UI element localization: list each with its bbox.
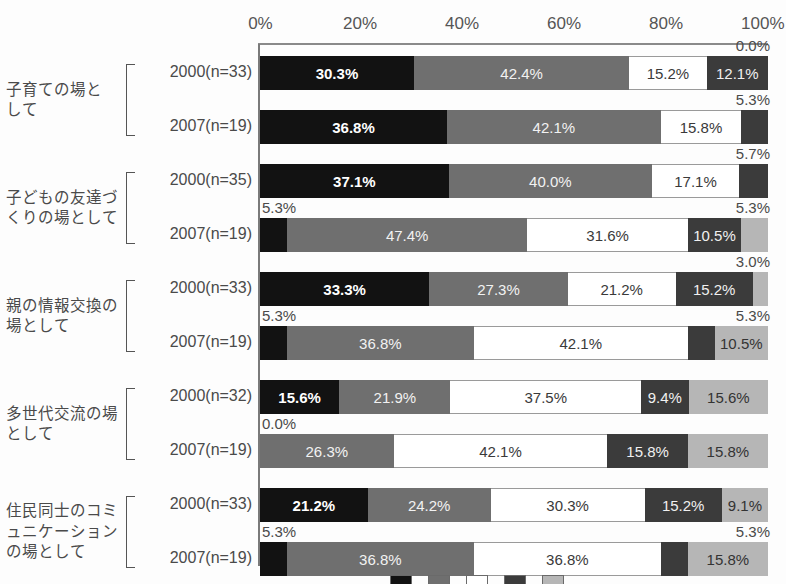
outside-value-label: 0.0% [262,415,296,432]
bar-segment-2: 26.3% [260,434,394,468]
bar-segment-2: 21.9% [339,380,450,414]
category-label-line: 住民同士のコミ [6,501,146,521]
bar-segment-5 [741,218,768,252]
bar-segment-4 [739,164,768,198]
legend-swatch-5 [542,575,564,584]
category-label-line: くりの場として [6,208,146,228]
bar-segment-5 [753,272,768,306]
category-label: 住民同士のコミュニケーションの場として [6,501,146,562]
x-axis-tick-80: 80% [649,14,683,34]
bar-segment-4: 10.5% [688,218,741,252]
legend-item-3 [466,575,488,584]
bar-row: 36.8%42.1%15.8% [260,110,768,144]
category-label: 親の情報交換の場として [6,296,146,337]
bar-segment-2: 24.2% [368,488,491,522]
bar-segment-2: 27.3% [429,272,568,306]
x-axis-tick-labels: 0%20%40%60%80%100% [258,14,768,38]
series-label-2000: 2000(n=35) [136,171,252,189]
outside-value-label: 3.0% [736,253,770,270]
series-label-2007: 2007(n=19) [136,225,252,243]
bar-segment-4: 15.2% [645,488,722,522]
category-label-line: 親の情報交換の [6,296,146,316]
series-label-2007: 2007(n=19) [136,333,252,351]
outside-value-label: 0.0% [736,37,770,54]
bar-segment-1 [260,542,287,576]
bar-segment-1 [260,326,287,360]
bar-segment-5: 15.6% [689,380,768,414]
chart-legend [390,575,564,584]
outside-value-label: 5.3% [736,307,770,324]
bar-segment-3: 15.2% [629,56,706,90]
legend-item-5 [542,575,564,584]
bar-row: 26.3%42.1%15.8%15.8% [260,434,768,468]
category-label-line: ュニケーション [6,522,146,542]
legend-swatch-4 [504,575,526,584]
legend-swatch-2 [428,575,450,584]
bar-segment-3: 17.1% [652,164,739,198]
series-label-2000: 2000(n=33) [136,279,252,297]
bar-segment-5: 9.1% [722,488,768,522]
series-label-2000: 2000(n=32) [136,387,252,405]
bar-row: 21.2%24.2%30.3%15.2%9.1% [260,488,768,522]
series-label-2000: 2000(n=33) [136,63,252,81]
bar-row: 37.1%40.0%17.1% [260,164,768,198]
x-axis-tick-20: 20% [343,14,377,34]
bar-segment-3: 42.1% [394,434,608,468]
bar-segment-1: 15.6% [260,380,339,414]
x-axis-tick-100: 100% [741,14,784,34]
bar-row: 47.4%31.6%10.5% [260,218,768,252]
category-label-line: 多世代交流の場 [6,404,146,424]
bar-segment-4 [661,542,688,576]
bar-segment-5: 15.8% [688,434,768,468]
bar-segment-2: 36.8% [287,326,474,360]
bar-segment-3: 21.2% [568,272,676,306]
bar-segment-1 [260,218,287,252]
bar-row: 15.6%21.9%37.5%9.4%15.6% [260,380,768,414]
bar-segment-4: 15.8% [607,434,687,468]
outside-value-label: 5.7% [736,145,770,162]
legend-swatch-3 [466,575,488,584]
bar-segment-3: 42.1% [474,326,688,360]
category-label-line: して [6,100,146,120]
bar-segment-4: 9.4% [641,380,689,414]
bar-segment-1: 36.8% [260,110,447,144]
series-label-2007: 2007(n=19) [136,441,252,459]
bar-segment-1: 30.3% [260,56,414,90]
series-label-2007: 2007(n=19) [136,549,252,567]
category-label-column: 2000(n=33)2007(n=19)子育ての場として2000(n=35)20… [0,0,258,584]
category-label-line: 場として [6,316,146,336]
bar-segment-2: 36.8% [287,542,474,576]
legend-item-4 [504,575,526,584]
bar-row: 30.3%42.4%15.2%12.1% [260,56,768,90]
stacked-bar-chart: 0%20%40%60%80%100% 2000(n=33)2007(n=19)子… [0,0,786,584]
bar-row: 36.8%36.8%15.8% [260,542,768,576]
category-label-line: の場として [6,542,146,562]
series-label-2007: 2007(n=19) [136,117,252,135]
category-label: 子育ての場として [6,80,146,121]
bar-segment-1: 21.2% [260,488,368,522]
legend-swatch-1 [390,575,412,584]
category-label: 多世代交流の場として [6,404,146,445]
bar-segment-2: 42.4% [414,56,629,90]
bar-segment-2: 40.0% [449,164,652,198]
bar-segment-2: 42.1% [447,110,661,144]
bar-segment-3: 31.6% [527,218,687,252]
bar-segment-4: 12.1% [707,56,768,90]
x-axis-tick-40: 40% [445,14,479,34]
legend-item-2 [428,575,450,584]
outside-value-label: 5.3% [736,523,770,540]
outside-value-label: 5.3% [736,91,770,108]
x-axis-tick-60: 60% [547,14,581,34]
bar-segment-3: 37.5% [450,380,641,414]
legend-item-1 [390,575,412,584]
category-label-line: として [6,424,146,444]
outside-value-label: 5.3% [736,199,770,216]
bar-segment-2: 47.4% [287,218,528,252]
series-label-2000: 2000(n=33) [136,495,252,513]
bar-segment-5: 15.8% [688,542,768,576]
bar-segment-3: 30.3% [491,488,645,522]
bar-segment-5: 10.5% [715,326,768,360]
bar-segment-4: 15.2% [676,272,753,306]
bar-segment-3: 36.8% [474,542,661,576]
bar-segment-1: 37.1% [260,164,449,198]
